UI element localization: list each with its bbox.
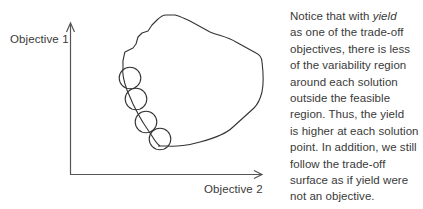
caption-line: surface as if yield were [290,172,423,188]
variability-circle [135,111,157,133]
caption-line: objectives, there is less [290,41,423,57]
caption-text: Notice that with yield as one of the tra… [290,8,423,205]
caption-line: outside the feasible [290,90,423,106]
variability-circle [125,88,147,110]
caption-emphasis: yield [373,10,397,22]
y-axis [67,23,75,174]
caption-line: as one of the trade-off [290,24,423,40]
caption-line: not an objective. [290,188,423,204]
caption-line: follow the trade-off [290,156,423,172]
x-axis-label: Objective 2 [204,183,263,195]
variability-circle [119,67,141,89]
caption-line: Notice that with yield [290,8,423,24]
y-axis-label: Objective 1 [10,33,69,45]
variability-circle [149,128,171,150]
caption-line: point. In addition, we still [290,139,423,155]
tradeoff-diagram: Objective 1 Objective 2 Notice that with… [0,0,423,209]
variability-circles [119,67,171,150]
feasible-region [123,15,263,146]
caption-line: around each solution [290,74,423,90]
caption-line: region. Thus, the yield [290,106,423,122]
caption-line: of the variability region [290,57,423,73]
caption-line: is higher at each solution [290,123,423,139]
x-axis [70,171,262,179]
